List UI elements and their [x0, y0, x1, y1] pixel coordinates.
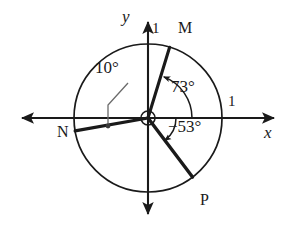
- y-axis-tick-label-1: 1: [152, 21, 160, 36]
- angle-label-10: 10°: [95, 59, 119, 76]
- ray-om: [148, 47, 170, 118]
- angle-label-minus-53: −53°: [168, 118, 201, 135]
- leader-dot-10deg: [106, 124, 111, 129]
- angle-label-73: 73°: [171, 78, 195, 95]
- point-label-p: P: [200, 192, 209, 208]
- point-label-n: N: [57, 124, 69, 140]
- unit-circle-figure: y x 1 1 M N P 73° −53° 10°: [0, 0, 295, 227]
- ray-on: [75, 118, 148, 131]
- point-label-m: M: [178, 20, 192, 36]
- x-axis-label: x: [264, 124, 272, 141]
- x-axis-tick-label-1: 1: [228, 94, 236, 109]
- leader-line-10deg: [108, 83, 128, 126]
- y-axis-label: y: [122, 8, 130, 25]
- figure-canvas: [0, 0, 295, 227]
